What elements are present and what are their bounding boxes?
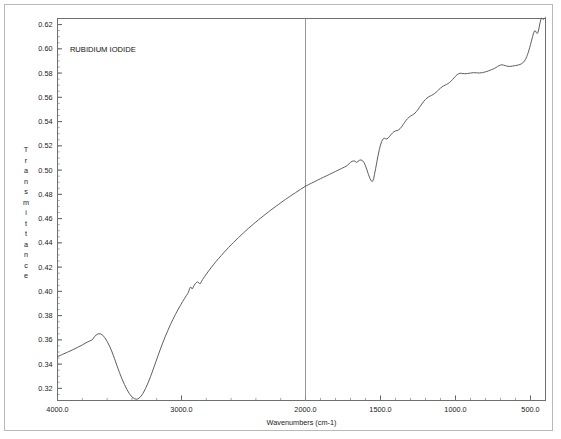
y-tick-label: 0.52 <box>38 141 52 150</box>
y-tick-label: 0.56 <box>38 93 52 102</box>
y-axis-title-letter: i <box>25 208 27 217</box>
x-tick-label: 1500.0 <box>369 405 391 414</box>
chart-svg: 0.620.600.580.560.540.520.500.480.460.44… <box>0 0 561 439</box>
y-tick-label: 0.48 <box>38 190 52 199</box>
x-axis-tick-labels: 4000.03000.02000.01500.01000.0500.0 <box>46 405 539 414</box>
y-tick-label: 0.38 <box>38 311 52 320</box>
y-tick-label: 0.50 <box>38 166 52 175</box>
y-axis-title: Transmittance <box>23 145 29 280</box>
y-tick-label: 0.34 <box>38 360 52 369</box>
y-axis-title-letter: t <box>25 229 27 238</box>
y-tick-label: 0.36 <box>38 335 52 344</box>
x-tick-label: 3000.0 <box>170 405 192 414</box>
x-tick-label: 2000.0 <box>294 405 316 414</box>
series-title-label: RUBIDIUM IODIDE <box>70 45 136 54</box>
y-axis-title-letter: n <box>24 177 28 186</box>
y-axis-title-letter: T <box>24 145 29 154</box>
y-tick-label: 0.32 <box>38 384 52 393</box>
x-axis-ticks <box>58 396 531 401</box>
spectrum-line <box>58 17 546 399</box>
spectrum-chart: 0.620.600.580.560.540.520.500.480.460.44… <box>0 0 561 439</box>
y-axis-title-letter: m <box>23 198 29 207</box>
x-tick-label: 1000.0 <box>444 405 466 414</box>
y-tick-label: 0.42 <box>38 263 52 272</box>
y-tick-label: 0.58 <box>38 69 52 78</box>
y-tick-label: 0.46 <box>38 214 52 223</box>
y-axis-tick-labels: 0.620.600.580.560.540.520.500.480.460.44… <box>38 20 52 393</box>
y-tick-label: 0.62 <box>38 20 52 29</box>
y-axis-title-letter: c <box>24 261 28 270</box>
y-axis-title-letter: n <box>24 250 28 259</box>
spectrum-curve <box>58 17 546 399</box>
y-axis-title-letter: t <box>25 219 27 228</box>
y-axis-title-letter: r <box>25 156 28 165</box>
y-tick-label: 0.40 <box>38 287 52 296</box>
plot-frame <box>58 19 546 401</box>
x-axis-title: Wavenumbers (cm-1) <box>267 418 337 427</box>
x-tick-label: 500.0 <box>521 405 539 414</box>
y-tick-label: 0.60 <box>38 44 52 53</box>
y-axis-title-letter: e <box>24 271 28 280</box>
y-axis-title-letter: a <box>24 166 29 175</box>
y-axis-title-letter: a <box>24 240 29 249</box>
x-tick-label: 4000.0 <box>46 405 68 414</box>
y-axis-title-letter: s <box>24 187 28 196</box>
y-tick-label: 0.44 <box>38 238 52 247</box>
y-tick-label: 0.54 <box>38 117 52 126</box>
